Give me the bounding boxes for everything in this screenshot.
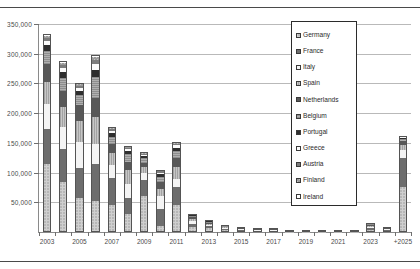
bar-+2025 xyxy=(399,136,407,232)
y-axis-label: 100,000 xyxy=(7,169,32,176)
y-axis-label: 250,000 xyxy=(7,80,32,87)
bar-segment-spain xyxy=(43,82,51,105)
top-divider-rule xyxy=(0,7,420,8)
x-axis-tick xyxy=(88,232,89,236)
bar-segment-germany xyxy=(108,205,116,232)
legend-label: Spain xyxy=(303,80,320,87)
bar-segment-belgium xyxy=(108,137,116,144)
x-axis-label: 2023 xyxy=(363,238,377,245)
legend-swatch-icon xyxy=(296,162,301,167)
x-axis-label: 2019 xyxy=(299,238,313,245)
bar-segment-portugal xyxy=(91,70,99,77)
x-axis-label: +2025 xyxy=(394,238,412,245)
bar-2016 xyxy=(253,228,261,232)
x-axis-tick xyxy=(136,232,137,236)
bar-2020 xyxy=(318,231,326,232)
bar-2024 xyxy=(383,227,391,232)
y-axis-label: 150,000 xyxy=(7,139,32,146)
bar-segment-germany xyxy=(221,230,229,232)
bar-segment-france xyxy=(75,168,83,198)
legend-label: Ireland xyxy=(303,194,323,201)
x-axis-tick xyxy=(249,232,250,236)
bar-segment-france xyxy=(91,164,99,201)
legend-item-france[interactable]: France xyxy=(296,43,356,59)
y-axis-tick xyxy=(34,173,39,174)
bar-segment-belgium xyxy=(75,95,83,105)
bar-segment-netherlands xyxy=(91,98,99,117)
bar-segment-germany xyxy=(75,198,83,232)
y-axis-tick xyxy=(34,113,39,114)
legend-item-belgium[interactable]: Belgium xyxy=(296,108,356,124)
y-axis-tick xyxy=(34,202,39,203)
bar-segment-italy xyxy=(59,127,67,148)
bar-segment-netherlands xyxy=(43,64,51,81)
x-axis-tick xyxy=(314,232,315,236)
x-axis-tick xyxy=(411,232,412,236)
x-axis-tick xyxy=(379,232,380,236)
bar-segment-france xyxy=(108,178,116,205)
bar-segment-france xyxy=(156,209,164,226)
legend-swatch-icon xyxy=(296,146,301,151)
legend-item-portugal[interactable]: Portugal xyxy=(296,124,356,140)
x-axis-label: 2009 xyxy=(137,238,151,245)
legend-item-finland[interactable]: Finland xyxy=(296,173,356,189)
bar-segment-germany xyxy=(140,196,148,232)
bar-2004 xyxy=(59,61,67,232)
bar-segment-france xyxy=(399,158,407,188)
y-axis-label: 200,000 xyxy=(7,110,32,117)
bar-segment-spain xyxy=(124,170,132,184)
bar-segment-italy xyxy=(75,142,83,168)
legend-item-spain[interactable]: Spain xyxy=(296,76,356,92)
bar-segment-belgium xyxy=(124,154,132,162)
x-axis-tick xyxy=(330,232,331,236)
bar-segment-belgium xyxy=(172,151,180,158)
bar-2009 xyxy=(140,152,148,232)
bar-segment-belgium xyxy=(59,78,67,91)
bar-2017 xyxy=(269,228,277,232)
legend-item-austria[interactable]: Austria xyxy=(296,157,356,173)
bar-segment-belgium xyxy=(43,51,51,64)
legend-label: Belgium xyxy=(303,113,327,120)
chart-figure: 50,000100,000150,000200,000250,000300,00… xyxy=(0,0,420,269)
x-axis-tick xyxy=(298,232,299,236)
legend-swatch-icon xyxy=(296,130,301,135)
bar-segment-germany xyxy=(59,182,67,233)
bar-segment-germany xyxy=(399,187,407,232)
bar-segment-spain xyxy=(172,167,180,179)
bar-2011 xyxy=(172,142,180,232)
bar-segment-spain xyxy=(91,117,99,144)
legend-item-germany[interactable]: Germany xyxy=(296,27,356,43)
legend-swatch-icon xyxy=(296,97,301,102)
x-axis-tick xyxy=(152,232,153,236)
bar-2014 xyxy=(221,225,229,232)
legend-item-greece[interactable]: Greece xyxy=(296,140,356,156)
legend-item-netherlands[interactable]: Netherlands xyxy=(296,92,356,108)
bottom-divider-rule xyxy=(0,261,420,262)
x-axis-label: 2005 xyxy=(72,238,86,245)
x-axis-tick xyxy=(71,232,72,236)
bar-2023 xyxy=(366,223,374,232)
legend-swatch-icon xyxy=(296,65,301,70)
legend-label: Greece xyxy=(303,145,325,152)
bar-segment-germany xyxy=(383,231,391,232)
bar-segment-italy xyxy=(172,179,180,187)
legend-item-ireland[interactable]: Ireland xyxy=(296,189,356,205)
y-axis-tick xyxy=(34,24,39,25)
bar-segment-netherlands xyxy=(75,105,83,120)
bar-2008 xyxy=(124,146,132,232)
x-axis-tick xyxy=(168,232,169,236)
x-axis-tick xyxy=(120,232,121,236)
bar-segment-germany xyxy=(188,227,196,232)
legend-label: Netherlands xyxy=(303,97,339,104)
bar-segment-germany xyxy=(124,214,132,232)
x-axis-label: 2013 xyxy=(202,238,216,245)
y-axis-tick xyxy=(34,54,39,55)
bar-segment-france xyxy=(172,187,180,205)
bar-2018 xyxy=(285,230,293,232)
bar-segment-germany xyxy=(237,231,245,232)
legend-swatch-icon xyxy=(296,81,301,86)
bar-2012 xyxy=(188,214,196,232)
bar-2006 xyxy=(91,55,99,232)
bar-segment-belgium xyxy=(91,77,99,98)
legend-item-italy[interactable]: Italy xyxy=(296,59,356,75)
